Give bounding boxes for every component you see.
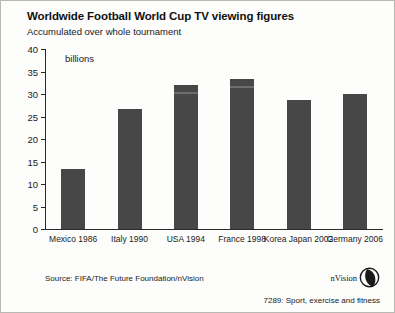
bar (61, 169, 85, 229)
bar-highlight-band (230, 86, 254, 88)
page-title: Worldwide Football World Cup TV viewing … (27, 10, 294, 22)
nvision-logo-icon (359, 267, 380, 288)
bar (230, 79, 254, 229)
brand-name: nVision (331, 273, 357, 283)
footer-code: 7289: Sport, exercise and fitness (263, 296, 380, 305)
bar (287, 100, 311, 229)
brand-logo: nVision (331, 267, 380, 288)
bar-series (45, 49, 383, 229)
y-axis-tick-label: 20 (27, 134, 38, 145)
y-axis-tick-label: 0 (33, 224, 38, 235)
y-axis-tick-label: 15 (27, 156, 38, 167)
y-axis-tick-label: 35 (27, 66, 38, 77)
y-axis-tick (41, 229, 45, 230)
y-axis-tick-label: 40 (27, 44, 38, 55)
y-axis-tick-label: 5 (33, 201, 38, 212)
chart-figure: Worldwide Football World Cup TV viewing … (0, 0, 395, 313)
y-axis-tick-label: 30 (27, 89, 38, 100)
x-axis-tick-label: Germany 2006 (317, 234, 393, 244)
y-axis-tick-label: 25 (27, 111, 38, 122)
plot-area: 0510152025303540 Mexico 1986Italy 1990US… (45, 49, 383, 229)
bar (343, 94, 367, 229)
bar (118, 109, 142, 229)
chart-subtitle: Accumulated over whole tournament (27, 26, 181, 37)
bar (174, 85, 198, 229)
bar-highlight-band (174, 92, 198, 94)
y-axis-tick-label: 10 (27, 179, 38, 190)
source-note: Source: FIFA/The Future Foundation/nVisi… (45, 274, 204, 283)
x-axis-line (45, 229, 383, 230)
